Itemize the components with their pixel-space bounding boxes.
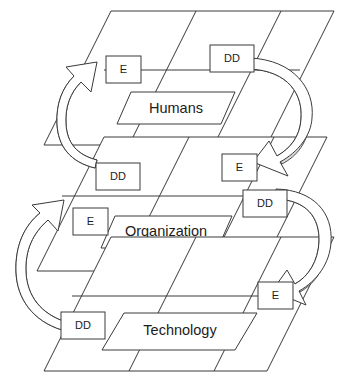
- node-label-dd-organization-left: DD: [110, 170, 126, 182]
- node-label-e-organization-left: E: [87, 215, 94, 227]
- node-label-dd-technology: DD: [75, 319, 91, 331]
- node-technology-output[interactable]: DD: [61, 312, 105, 339]
- node-label-e-organization-right: E: [236, 161, 243, 173]
- node-organization-output-left[interactable]: DD: [96, 163, 140, 190]
- node-label-e-humans: E: [120, 63, 127, 75]
- layer-organization-label: Organization: [125, 223, 207, 239]
- layer-technology-label: Technology: [143, 322, 217, 338]
- node-organization-input-right[interactable]: E: [222, 154, 257, 181]
- node-label-e-technology: E: [272, 289, 279, 301]
- layer-humans-label: Humans: [149, 100, 203, 116]
- layered-cycle-diagram: Humans Organization Technology: [0, 0, 346, 381]
- node-organization-input-left[interactable]: E: [73, 208, 108, 235]
- node-technology-input[interactable]: E: [258, 282, 293, 309]
- node-label-dd-humans: DD: [224, 52, 240, 64]
- node-label-dd-organization-right: DD: [257, 197, 273, 209]
- node-organization-output-right[interactable]: DD: [243, 190, 287, 217]
- node-humans-input[interactable]: E: [106, 56, 141, 83]
- diagram-canvas: Humans Organization Technology: [0, 0, 346, 381]
- node-humans-output[interactable]: DD: [210, 45, 254, 72]
